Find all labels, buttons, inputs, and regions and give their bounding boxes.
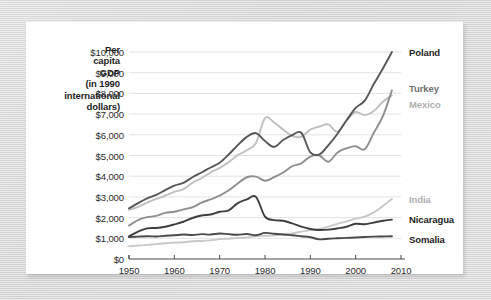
y-axis-tick-label: $4,000 (66, 171, 124, 182)
screenshot-frame: PercapitaGDP(in 1990internationaldollars… (0, 0, 491, 300)
x-axis-tick-label: 2010 (381, 265, 421, 276)
x-axis-tick-label: 1980 (245, 265, 285, 276)
series-label-turkey: Turkey (409, 83, 439, 94)
series-label-nicaragua: Nicaragua (409, 213, 454, 224)
y-axis-tick-label: $9,000 (66, 67, 124, 78)
chart-card: PercapitaGDP(in 1990internationaldollars… (26, 22, 463, 274)
y-axis-tick-label: $2,000 (66, 212, 124, 223)
y-axis-tick-label: $8,000 (66, 88, 124, 99)
series-label-mexico: Mexico (409, 99, 441, 110)
chart-plot-area: $0$1,000$2,000$3,000$4,000$5,000$6,000$7… (26, 22, 463, 274)
y-axis-tick-label: $6,000 (66, 129, 124, 140)
x-axis-tick-label: 1990 (290, 265, 330, 276)
series-line-nicaragua (129, 196, 392, 236)
series-label-somalia: Somalia (409, 234, 445, 245)
y-axis-tick-label: $3,000 (66, 191, 124, 202)
x-axis-tick-label: 1970 (200, 265, 240, 276)
y-axis-tick-label: $7,000 (66, 109, 124, 120)
y-axis-tick-label: $1,000 (66, 233, 124, 244)
y-axis-tick-label: $10,000 (66, 47, 124, 58)
series-label-india: India (409, 193, 431, 204)
x-axis-tick-label: 1960 (154, 265, 194, 276)
series-label-poland: Poland (409, 47, 440, 58)
y-axis-tick-label: $0 (66, 254, 124, 265)
x-axis-tick-label: 2000 (336, 265, 376, 276)
x-axis-tick-label: 1950 (109, 265, 149, 276)
y-axis-tick-label: $5,000 (66, 150, 124, 161)
